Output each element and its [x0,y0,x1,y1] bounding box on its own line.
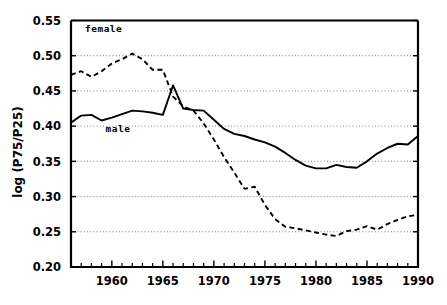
x-tick-label: 1975 [249,274,281,288]
y-axis-ticks [71,21,418,268]
data-series [71,54,418,236]
y-axis-title: log (P75/P25) [11,106,25,197]
axis-frame [71,21,418,268]
y-tick-label: 0.45 [33,84,61,98]
y-tick-label: 0.25 [33,225,61,239]
series-annotation-female: female [85,23,122,34]
x-tick-label: 1965 [147,274,179,288]
y-axis-tick-labels: 0.550.500.450.400.350.300.250.20 [33,14,61,275]
y-tick-label: 0.35 [33,155,61,169]
y-tick-label: 0.55 [33,14,61,28]
x-tick-label: 1970 [198,274,230,288]
x-tick-label: 1960 [96,274,128,288]
series-line-female [71,54,418,236]
series-annotations: femalemale [85,23,130,133]
series-annotation-male: male [106,123,131,134]
x-tick-label: 1985 [351,274,383,288]
x-axis-tick-labels: 1960196519701975198019851990 [96,274,434,288]
plot-frame [71,21,418,268]
chart-figure: 0.550.500.450.400.350.300.250.20 1960196… [0,0,447,305]
y-tick-label: 0.20 [33,260,61,274]
y-tick-label: 0.50 [33,49,61,63]
y-tick-label: 0.30 [33,190,61,204]
x-tick-label: 1980 [300,274,332,288]
x-tick-label: 1990 [402,274,434,288]
grid-lines [71,56,418,232]
line-chart: 0.550.500.450.400.350.300.250.20 1960196… [0,0,447,305]
y-tick-label: 0.40 [33,119,61,133]
